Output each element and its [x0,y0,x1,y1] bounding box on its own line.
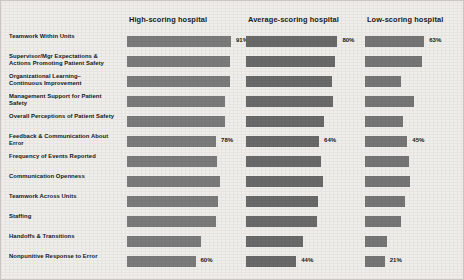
bar [365,156,409,168]
bar-cell [246,93,365,113]
bar-cell: 45% [365,133,463,153]
bar [365,96,414,108]
row-label-line: Teamwork Within Units [9,33,121,40]
bar [246,256,296,268]
bar-cell [127,53,246,73]
row-label-line: Actions Promoting Patient Safety [9,60,121,67]
bar-cell [127,113,246,133]
bar-cell [365,153,463,173]
row-label-line: Feedback & Communication About [9,133,121,140]
bar-cell [246,113,365,133]
bar [365,36,424,48]
chart-container: High-scoring hospital Average-scoring ho… [0,0,464,280]
bar [127,96,225,108]
row-label-line: Organizational Learning– [9,73,121,80]
row-label: Communication Openness [9,173,121,180]
column-header-average-scoring: Average-scoring hospital [248,15,339,24]
chart-row: Overall Perceptions of Patient Safety [1,113,464,133]
bar-cell [127,153,246,173]
bar [246,216,317,228]
row-label-line: Nonpunitive Response to Error [9,253,121,260]
bar [246,236,303,248]
chart-row: Supervisor/Mgr Expectations &Actions Pro… [1,53,464,73]
chart-row: Organizational Learning–Continuous Impro… [1,73,464,93]
bar-cell: 44% [246,253,365,273]
bar-cell [246,173,365,193]
bar-cell [365,173,463,193]
bar-cell [365,93,463,113]
row-label-line: Overall Perceptions of Patient Safety [9,113,121,120]
bar [246,176,323,188]
bar [246,36,337,48]
column-header-low-scoring: Low-scoring hospital [367,15,443,24]
bar [246,156,321,168]
row-label: Staffing [9,213,121,220]
row-label: Organizational Learning–Continuous Impro… [9,73,121,87]
bar [365,116,403,128]
chart-row: Management Support for PatientSafety [1,93,464,113]
row-label-line: Handoffs & Transitions [9,233,121,240]
row-label: Teamwork Within Units [9,33,121,40]
row-label-line: Safety [9,100,121,107]
bar-cell: 60% [127,253,246,273]
row-label-line: Continuous Improvement [9,80,121,87]
row-label-line: Teamwork Across Units [9,193,121,200]
bar-cell [365,213,463,233]
bar-cell [246,233,365,253]
bar-cell [246,53,365,73]
chart-row: Frequency of Events Reported [1,153,464,173]
bar [246,96,333,108]
bar-value-label: 80% [342,37,354,43]
bar-cell [127,173,246,193]
row-label-line: Management Support for Patient [9,93,121,100]
bar [127,56,230,68]
bar [365,196,405,208]
bar-value-label: 21% [390,257,402,263]
chart-row: Teamwork Across Units [1,193,464,213]
row-label: Overall Perceptions of Patient Safety [9,113,121,120]
row-label-line: Supervisor/Mgr Expectations & [9,53,121,60]
row-label-line: Communication Openness [9,173,121,180]
bar [365,76,401,88]
bar-value-label: 64% [324,137,336,143]
bar-cell [127,93,246,113]
chart-row: Communication Openness [1,173,464,193]
bar-cell: 78% [127,133,246,153]
bar-cell [365,53,463,73]
chart-row: Teamwork Within Units91%80%63% [1,33,464,53]
bar [365,256,385,268]
chart-row: Nonpunitive Response to Error60%44%21% [1,253,464,273]
bar-cell: 21% [365,253,463,273]
row-label: Feedback & Communication AboutError [9,133,121,147]
bar-cell [127,193,246,213]
bar [127,216,216,228]
bar-value-label: 44% [301,257,313,263]
bar-cell [365,73,463,93]
bar [246,196,318,208]
bar [127,76,230,88]
bar-cell: 91% [127,33,246,53]
bar [365,176,410,188]
bar [127,156,217,168]
bar [127,136,216,148]
bar-cell [246,73,365,93]
bar-cell [365,233,463,253]
bar-cell [246,193,365,213]
bar-cell [127,233,246,253]
bar-cell: 63% [365,33,463,53]
bar-cell [365,193,463,213]
bar-value-label: 45% [412,137,424,143]
bar-cell: 80% [246,33,365,53]
bar-cell [365,113,463,133]
bar [365,216,401,228]
row-label: Teamwork Across Units [9,193,121,200]
bar-value-label: 60% [201,257,213,263]
row-label-line: Staffing [9,213,121,220]
bar [127,256,196,268]
bar [246,116,324,128]
bar [365,236,387,248]
bar [127,176,220,188]
bar [246,136,319,148]
bar-cell [246,213,365,233]
row-label-line: Frequency of Events Reported [9,153,121,160]
